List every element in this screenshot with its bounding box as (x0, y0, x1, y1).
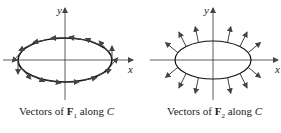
caption-text: along (77, 105, 107, 117)
caption-f1: Vectors of F1 along C (19, 105, 114, 120)
caption-text: along (225, 105, 255, 117)
x-axis-label: x (128, 63, 133, 75)
x-axis-label: x (275, 63, 280, 75)
caption-text: Vectors of (167, 105, 215, 117)
caption-f2: Vectors of F2 along C (167, 105, 262, 120)
caption-text: Vectors of (19, 105, 67, 117)
y-axis-label: y (57, 4, 62, 16)
y-axis-label: y (204, 4, 209, 16)
panel-f1 (3, 8, 133, 100)
curve-symbol: C (255, 105, 262, 117)
panel-f2 (150, 8, 278, 100)
curve-symbol: C (107, 105, 114, 117)
